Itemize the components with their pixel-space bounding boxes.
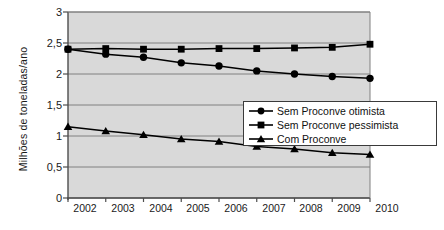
legend-item: Sem Proconve otimista [244, 104, 436, 118]
x-tick-label: 2004 [144, 203, 178, 214]
line-chart: Milhões de toneladas/ano 3 2,5 2 1,5 1 0… [0, 0, 444, 230]
legend-square-marker-icon [248, 118, 274, 132]
legend-item: Sem Proconve pessimista [244, 118, 436, 132]
legend-item: Com Proconve [244, 132, 436, 146]
x-tick-label: 2005 [181, 203, 215, 214]
x-tick-label: 2009 [332, 203, 366, 214]
x-tick-label: 2003 [106, 203, 140, 214]
x-tick-label: 2007 [257, 203, 291, 214]
x-tick-label: 2010 [370, 203, 404, 214]
legend-item-label: Sem Proconve otimista [277, 105, 385, 117]
legend-item-label: Sem Proconve pessimista [277, 119, 398, 131]
x-tick-label: 2008 [294, 203, 328, 214]
x-tick-label: 2006 [219, 203, 253, 214]
legend: Sem Proconve otimista Sem Proconve pessi… [243, 101, 437, 146]
x-tick-label: 2002 [68, 203, 102, 214]
legend-item-label: Com Proconve [277, 133, 346, 145]
legend-triangle-marker-icon [248, 132, 274, 146]
legend-circle-marker-icon [248, 104, 274, 118]
